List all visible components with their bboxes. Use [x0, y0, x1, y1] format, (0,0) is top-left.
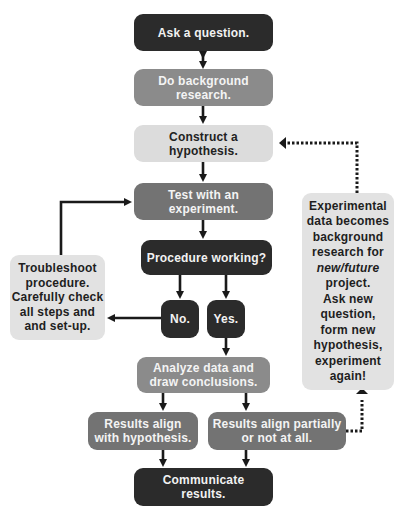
- node-label-emphasis: new/future: [317, 261, 380, 277]
- node-communicate-results: Communicate results.: [134, 468, 273, 506]
- node-label: Test with an experiment.: [168, 188, 239, 216]
- node-label-part2: project. Ask new question, form new hypo…: [314, 276, 383, 385]
- node-label: Results align partially or not at all.: [213, 417, 342, 445]
- node-label: Ask a question.: [158, 26, 250, 40]
- node-results-partial: Results align partially or not at all.: [208, 412, 346, 450]
- node-label: Troubleshoot procedure. Carefully check …: [12, 261, 104, 334]
- node-label: No.: [170, 312, 190, 326]
- arrow-troubleshoot-test: [61, 202, 128, 255]
- node-background-research: Do background research.: [134, 69, 273, 106]
- arrowhead-hypothesis: [279, 137, 286, 149]
- node-troubleshoot: Troubleshoot procedure. Carefully check …: [10, 255, 105, 340]
- node-label: Procedure working?: [147, 251, 267, 265]
- dotted-arrow-feedback-hypothesis: [284, 143, 357, 193]
- node-construct-hypothesis: Construct a hypothesis.: [134, 125, 273, 162]
- node-label: Analyze data and draw conclusions.: [149, 361, 257, 389]
- node-test-experiment: Test with an experiment.: [134, 183, 273, 220]
- node-analyze-data: Analyze data and draw conclusions.: [137, 357, 270, 393]
- node-results-align: Results align with hypothesis.: [88, 412, 198, 450]
- node-label: Do background research.: [158, 74, 249, 102]
- node-experimental-data-feedback: Experimental data becomes background res…: [302, 193, 394, 390]
- dotted-arrow-partial-feedback: [346, 400, 362, 431]
- node-label: Results align with hypothesis.: [94, 417, 191, 445]
- node-label: Construct a hypothesis.: [169, 130, 238, 158]
- node-no: No.: [161, 300, 199, 338]
- node-yes: Yes.: [207, 300, 245, 338]
- node-label-part1: Experimental data becomes background res…: [307, 199, 389, 261]
- node-ask-question: Ask a question.: [134, 14, 273, 51]
- node-procedure-working: Procedure working?: [141, 240, 272, 275]
- node-label: Yes.: [214, 312, 239, 326]
- node-label: Communicate results.: [163, 473, 245, 501]
